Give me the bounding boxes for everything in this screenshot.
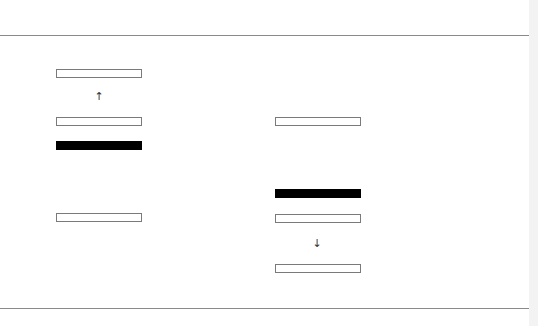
right-cell-1-empty xyxy=(275,117,361,126)
up-arrow-icon: ↑ xyxy=(94,91,104,102)
bottom-rule xyxy=(0,308,529,309)
left-cell-1-empty xyxy=(56,69,142,78)
scrollbar-track[interactable] xyxy=(529,0,538,326)
left-cell-4-empty xyxy=(56,213,142,222)
right-cell-2-filled xyxy=(275,189,361,198)
top-rule xyxy=(0,35,529,36)
right-cell-4-empty xyxy=(275,264,361,273)
left-cell-3-filled xyxy=(56,141,142,150)
right-cell-3-empty xyxy=(275,214,361,223)
left-cell-2-empty xyxy=(56,117,142,126)
down-arrow-icon: ↓ xyxy=(312,238,322,249)
